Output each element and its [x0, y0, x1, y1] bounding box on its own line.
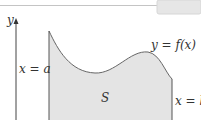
figure-badge	[157, 0, 201, 14]
curve-label: y = f(x)	[151, 39, 196, 51]
y-axis-label: y	[7, 14, 14, 26]
right-bound-label: x = b	[175, 95, 201, 107]
region-label: S	[101, 92, 109, 104]
left-bound-label: x = a	[19, 63, 51, 75]
y-axis-arrow-icon	[14, 18, 19, 24]
